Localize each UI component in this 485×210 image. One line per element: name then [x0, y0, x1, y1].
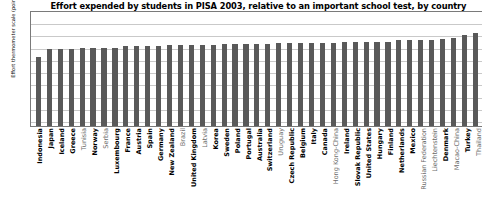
bar-slot — [120, 12, 131, 126]
bar[interactable] — [69, 49, 74, 126]
bar[interactable] — [47, 49, 52, 126]
x-label-slot: Germany — [152, 128, 163, 210]
bar[interactable] — [58, 49, 63, 126]
bar-slot — [186, 12, 197, 126]
bar-slot — [415, 12, 426, 126]
bar[interactable] — [156, 46, 161, 126]
bar-slot — [33, 12, 44, 126]
bar[interactable] — [243, 44, 248, 126]
x-label-slot: Brazil — [174, 128, 185, 210]
bar-slot — [284, 12, 295, 126]
x-label-slot: Hong Kong-China — [328, 128, 339, 210]
bar-slot — [372, 12, 383, 126]
bar-slot — [426, 12, 437, 126]
bar[interactable] — [276, 43, 281, 126]
x-label-slot: Finland — [383, 128, 394, 210]
bar[interactable] — [134, 46, 139, 126]
x-label-slot: Sweden — [218, 128, 229, 210]
x-label-slot: Turkey — [459, 128, 470, 210]
bar-slot — [230, 12, 241, 126]
bar[interactable] — [36, 57, 41, 126]
bar-slot — [459, 12, 470, 126]
bar-slot — [350, 12, 361, 126]
bar[interactable] — [178, 45, 183, 126]
bar[interactable] — [232, 44, 237, 126]
x-label-slot: Iceland — [54, 128, 65, 210]
x-label-slot: Indonesia — [32, 128, 43, 210]
bar-slot — [306, 12, 317, 126]
x-label-slot: United Kingdom — [185, 128, 196, 210]
x-label-slot: France — [120, 128, 131, 210]
bar[interactable] — [320, 43, 325, 126]
x-label-slot: Canada — [317, 128, 328, 210]
x-label-slot: Ireland — [339, 128, 350, 210]
x-label-slot: Spain — [142, 128, 153, 210]
bar[interactable] — [364, 42, 369, 126]
x-label-slot: Latvia — [196, 128, 207, 210]
bar[interactable] — [407, 40, 412, 126]
bar[interactable] — [374, 42, 379, 126]
bar[interactable] — [189, 45, 194, 126]
bar[interactable] — [451, 38, 456, 126]
bar-slot — [66, 12, 77, 126]
x-label-slot: Australia — [251, 128, 262, 210]
bar[interactable] — [265, 44, 270, 126]
bar[interactable] — [112, 48, 117, 126]
x-label-slot: Macao-China — [448, 128, 459, 210]
x-axis-tick: Thailand — [476, 128, 483, 156]
bar[interactable] — [396, 40, 401, 126]
x-label-slot: Japan — [43, 128, 54, 210]
bar[interactable] — [473, 33, 478, 126]
bar[interactable] — [222, 44, 227, 126]
bar[interactable] — [90, 48, 95, 126]
x-label-slot: Hungary — [372, 128, 383, 210]
bar[interactable] — [80, 48, 85, 126]
bar-slot — [164, 12, 175, 126]
bar[interactable] — [342, 42, 347, 126]
bar[interactable] — [440, 39, 445, 126]
bar[interactable] — [298, 43, 303, 126]
bar[interactable] — [167, 45, 172, 126]
bar-slot — [44, 12, 55, 126]
bar[interactable] — [254, 44, 259, 126]
bar-slot — [219, 12, 230, 126]
bar[interactable] — [145, 46, 150, 126]
bar-slot — [88, 12, 99, 126]
x-label-slot: Thailand — [470, 128, 481, 210]
bar[interactable] — [385, 42, 390, 126]
bar-slot — [383, 12, 394, 126]
bar-slot — [328, 12, 339, 126]
bar[interactable] — [101, 48, 106, 126]
bar-slot — [361, 12, 372, 126]
bar-slot — [437, 12, 448, 126]
bar-slot — [99, 12, 110, 126]
bar[interactable] — [200, 45, 205, 126]
x-label-slot: United States — [361, 128, 372, 210]
x-label-slot: Uruguay — [273, 128, 284, 210]
bar[interactable] — [309, 43, 314, 126]
x-axis-tick-labels: IndonesiaJapanIcelandGreeceTunisiaNorway… — [31, 128, 482, 210]
bar-slot — [109, 12, 120, 126]
x-label-slot: Netherlands — [393, 128, 404, 210]
bar[interactable] — [287, 43, 292, 126]
x-label-slot: Serbia — [98, 128, 109, 210]
x-label-slot: Tunisia — [76, 128, 87, 210]
x-label-slot: Denmark — [437, 128, 448, 210]
bar[interactable] — [123, 46, 128, 126]
bar[interactable] — [353, 42, 358, 126]
x-label-slot: New Zealand — [163, 128, 174, 210]
x-label-slot: Portugal — [240, 128, 251, 210]
bar-slot — [393, 12, 404, 126]
bar-slot — [470, 12, 481, 126]
bar[interactable] — [211, 45, 216, 126]
x-label-slot: Poland — [229, 128, 240, 210]
bar-series — [32, 12, 482, 126]
bar-slot — [153, 12, 164, 126]
bar-slot — [317, 12, 328, 126]
chart-title: Effort expended by students in PISA 2003… — [36, 1, 481, 11]
bar[interactable] — [331, 43, 336, 126]
bar[interactable] — [418, 40, 423, 126]
x-label-slot: Belgium — [295, 128, 306, 210]
bar[interactable] — [462, 35, 467, 126]
bar[interactable] — [429, 40, 434, 126]
